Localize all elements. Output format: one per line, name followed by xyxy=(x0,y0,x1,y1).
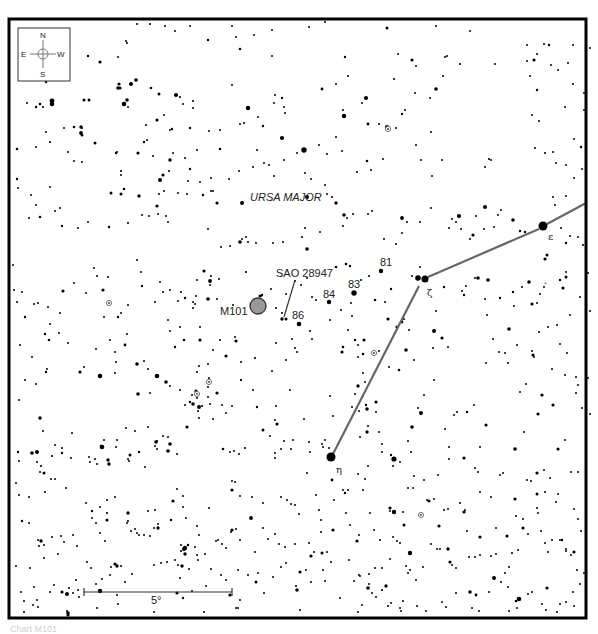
field-star xyxy=(461,290,463,292)
variable-star-core xyxy=(420,514,422,516)
field-star xyxy=(274,457,276,459)
field-star xyxy=(63,127,65,129)
field-star xyxy=(473,404,475,406)
field-star xyxy=(86,561,88,563)
field-star xyxy=(521,286,523,288)
field-star xyxy=(407,572,409,574)
bright-field-star xyxy=(513,447,517,451)
bright-field-star xyxy=(457,214,461,218)
field-star xyxy=(150,87,153,90)
field-star xyxy=(485,362,487,364)
field-star xyxy=(126,522,128,524)
star-86[interactable] xyxy=(297,322,302,327)
bright-field-star xyxy=(432,329,436,333)
field-star xyxy=(411,275,413,277)
field-star xyxy=(125,40,127,42)
bright-field-star xyxy=(295,588,299,592)
field-star xyxy=(332,415,334,417)
field-star xyxy=(169,289,171,291)
bright-field-star xyxy=(38,416,41,419)
field-star xyxy=(148,215,150,217)
field-star xyxy=(389,510,391,512)
field-star xyxy=(269,435,271,437)
bright-field-star xyxy=(527,280,531,284)
field-star xyxy=(569,235,571,237)
field-star xyxy=(125,427,127,429)
bright-field-star xyxy=(110,192,113,195)
field-star xyxy=(413,359,415,361)
star-zeta-companion[interactable] xyxy=(415,275,421,281)
field-star xyxy=(179,577,181,579)
field-star xyxy=(169,129,171,131)
field-star xyxy=(423,479,425,481)
field-star xyxy=(344,56,346,58)
field-star xyxy=(37,606,39,608)
field-star xyxy=(116,594,118,596)
field-star xyxy=(126,42,128,44)
field-star xyxy=(296,152,298,154)
field-star xyxy=(189,168,191,170)
field-star xyxy=(517,549,519,551)
star-sao-28947[interactable] xyxy=(280,317,283,320)
field-star xyxy=(468,556,470,558)
bright-field-star xyxy=(505,534,508,537)
star-84[interactable] xyxy=(327,300,331,304)
field-star xyxy=(134,528,136,530)
field-star xyxy=(453,414,455,416)
field-star xyxy=(342,109,344,111)
field-star xyxy=(128,460,130,462)
field-star xyxy=(89,461,91,463)
field-star xyxy=(498,351,500,353)
bright-field-star xyxy=(191,402,195,406)
field-star xyxy=(50,478,52,480)
field-star xyxy=(579,583,581,585)
field-star xyxy=(381,567,383,569)
field-star xyxy=(511,218,515,222)
field-star xyxy=(305,569,307,571)
field-star xyxy=(479,554,481,556)
bright-field-star xyxy=(101,288,104,291)
field-star xyxy=(205,585,207,587)
field-star xyxy=(345,263,348,266)
field-star xyxy=(556,324,558,326)
field-star xyxy=(153,564,155,566)
bright-field-star xyxy=(215,391,218,394)
field-star xyxy=(20,591,22,593)
field-star xyxy=(37,302,39,304)
field-star xyxy=(459,63,461,65)
m101-galaxy-marker[interactable] xyxy=(250,298,266,314)
field-star xyxy=(357,344,359,346)
bright-field-star xyxy=(403,524,406,527)
field-star xyxy=(33,303,35,305)
field-star xyxy=(65,487,67,489)
field-star xyxy=(95,583,97,585)
star-sao-28947-companion[interactable] xyxy=(285,318,288,321)
star-eta[interactable] xyxy=(327,453,336,462)
bright-field-star xyxy=(364,96,368,100)
field-star xyxy=(443,509,445,511)
bright-field-star xyxy=(334,201,337,204)
field-star xyxy=(209,284,211,286)
field-star xyxy=(436,548,438,550)
field-star xyxy=(285,359,287,361)
star-81[interactable] xyxy=(379,269,383,273)
star-zeta[interactable] xyxy=(422,276,429,283)
field-star xyxy=(39,103,42,106)
field-star xyxy=(43,557,45,559)
field-star xyxy=(575,392,577,394)
field-star xyxy=(51,455,53,457)
field-star xyxy=(212,190,214,192)
field-star xyxy=(196,397,198,399)
field-star xyxy=(547,551,549,553)
bright-field-star xyxy=(249,516,253,520)
field-star xyxy=(537,512,539,514)
field-star xyxy=(474,556,476,558)
star-83[interactable] xyxy=(351,290,356,295)
bright-field-star xyxy=(440,336,443,339)
star-epsilon[interactable] xyxy=(539,222,548,231)
field-star xyxy=(237,607,239,609)
field-star xyxy=(565,601,567,603)
bright-field-star xyxy=(135,362,139,366)
field-star xyxy=(136,23,138,25)
field-star xyxy=(565,550,567,552)
